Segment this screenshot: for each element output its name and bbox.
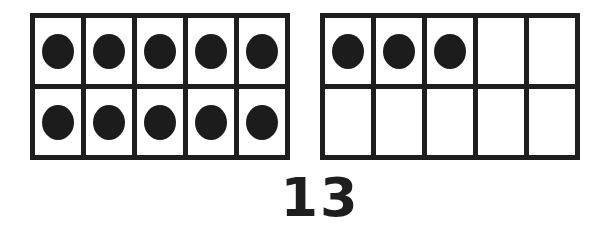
ten-frame-left — [30, 13, 290, 160]
counter-dot-icon — [246, 105, 278, 140]
frame-cell — [478, 18, 524, 84]
frame-cell — [239, 18, 285, 84]
counter-dot-icon — [42, 105, 74, 140]
frame-cell — [35, 18, 81, 84]
frame-cell — [188, 89, 234, 155]
ten-frame-right — [320, 13, 580, 160]
frame-cell — [529, 89, 575, 155]
frame-cell — [325, 89, 371, 155]
frame-cell — [137, 18, 183, 84]
frame-cell — [239, 89, 285, 155]
frame-cell — [188, 18, 234, 84]
counter-dot-icon — [383, 34, 415, 69]
frame-cell — [427, 89, 473, 155]
counter-dot-icon — [246, 34, 278, 69]
frame-cell — [478, 89, 524, 155]
counter-dot-icon — [144, 34, 176, 69]
frame-cell — [427, 18, 473, 84]
frame-cell — [529, 18, 575, 84]
counter-dot-icon — [42, 34, 74, 69]
counter-dot-icon — [195, 34, 227, 69]
counter-dot-icon — [195, 105, 227, 140]
frame-cell — [35, 89, 81, 155]
counter-dot-icon — [93, 105, 125, 140]
counter-dot-icon — [93, 34, 125, 69]
frame-cell — [86, 89, 132, 155]
counter-dot-icon — [144, 105, 176, 140]
frame-cell — [137, 89, 183, 155]
frame-cell — [86, 18, 132, 84]
counter-dot-icon — [332, 34, 364, 69]
counter-dot-icon — [434, 34, 466, 69]
frame-cell — [376, 18, 422, 84]
frame-cell — [325, 18, 371, 84]
number-label: 13 — [0, 166, 609, 229]
frame-cell — [376, 89, 422, 155]
